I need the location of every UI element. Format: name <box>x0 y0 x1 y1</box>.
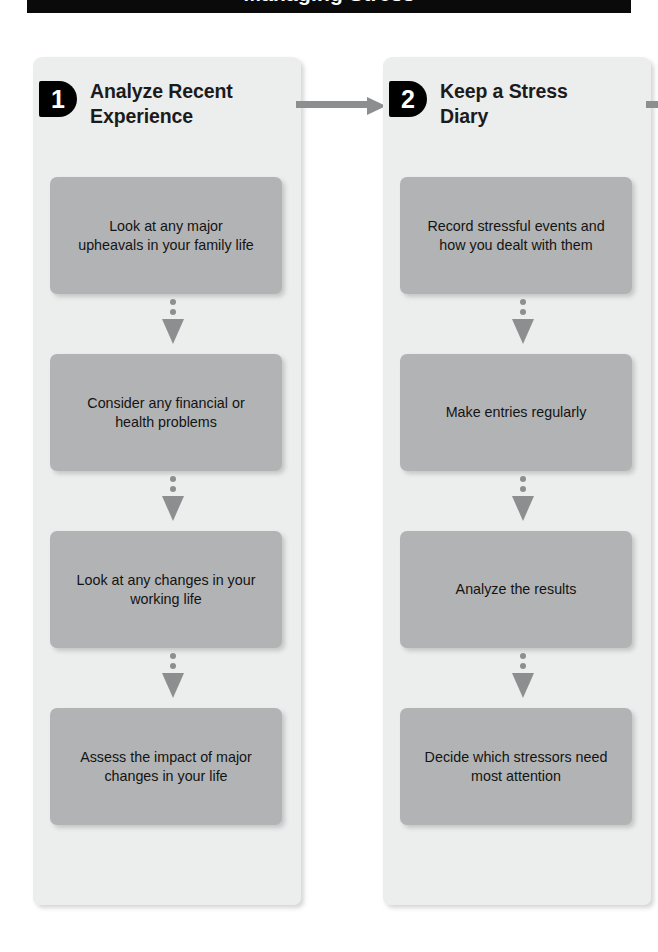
dotted-arrow-down-icon <box>161 474 185 526</box>
connector-dot <box>170 476 176 482</box>
step-2-task-2: Make entries regularly <box>400 354 632 471</box>
connector-dot <box>520 309 526 315</box>
step-1-header: 1 Analyze Recent Experience <box>33 79 301 151</box>
arrow-down-icon <box>512 496 534 521</box>
dotted-arrow-down-icon <box>511 651 535 703</box>
arrow-right-icon-step-2-to-next <box>646 97 658 111</box>
process-flow-diagram: 1 Analyze Recent Experience Look at any … <box>0 0 658 952</box>
dotted-arrow-down-icon <box>161 297 185 349</box>
step-panel-1: 1 Analyze Recent Experience Look at any … <box>33 57 301 905</box>
step-1-task-2: Consider any financial or health problem… <box>50 354 282 471</box>
connector-dot <box>170 299 176 305</box>
step-1-task-1: Look at any major upheavals in your fami… <box>50 177 282 294</box>
step-1-task-3: Look at any changes in your working life <box>50 531 282 648</box>
step-panel-2: 2 Keep a Stress Diary Record stressful e… <box>383 57 651 905</box>
dotted-arrow-down-icon <box>511 474 535 526</box>
step-2-task-3: Analyze the results <box>400 531 632 648</box>
step-1-title: Analyze Recent Experience <box>90 79 301 129</box>
arrow-right-icon-step-1-to-2 <box>296 97 388 111</box>
connector-dot <box>520 486 526 492</box>
connector-dot <box>520 663 526 669</box>
step-2-task-4: Decide which stressors need most attenti… <box>400 708 632 825</box>
step-2-header: 2 Keep a Stress Diary <box>383 79 651 151</box>
step-1-number-badge: 1 <box>39 81 77 117</box>
dotted-arrow-down-icon <box>161 651 185 703</box>
arrow-down-icon <box>512 673 534 698</box>
connector-dot <box>170 486 176 492</box>
step-2-task-1: Record stressful events and how you deal… <box>400 177 632 294</box>
connector-dot <box>170 663 176 669</box>
arrow-shaft <box>296 101 370 108</box>
step-1-task-4: Assess the impact of major changes in yo… <box>50 708 282 825</box>
arrow-down-icon <box>162 673 184 698</box>
connector-dot <box>520 476 526 482</box>
arrow-down-icon <box>512 319 534 344</box>
connector-dot <box>520 299 526 305</box>
step-2-number-badge: 2 <box>389 81 427 117</box>
arrow-down-icon <box>162 496 184 521</box>
arrow-shaft <box>646 101 658 108</box>
arrow-down-icon <box>162 319 184 344</box>
connector-dot <box>170 653 176 659</box>
step-2-title: Keep a Stress Diary <box>440 79 651 129</box>
connector-dot <box>520 653 526 659</box>
dotted-arrow-down-icon <box>511 297 535 349</box>
connector-dot <box>170 309 176 315</box>
